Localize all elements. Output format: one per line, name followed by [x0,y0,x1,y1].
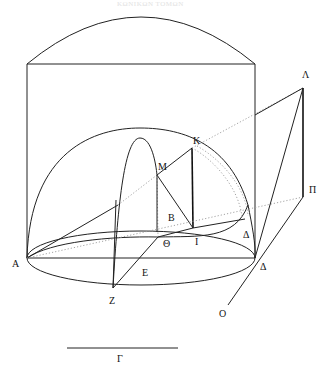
label-delta-lower: Δ [260,261,267,272]
dotted-quarter-arc-2 [197,146,248,216]
line-k-i [192,148,193,228]
label-gamma: Γ [117,353,123,364]
label-lambda: Λ [302,69,310,80]
label-kappa: Κ [193,135,201,146]
label-mu: Μ [158,161,167,172]
line-i-delta [193,219,245,228]
geometry-diagram: ΚΩΝΙΚΩΝ ΤΟΜΩΝ [0,0,331,373]
label-theta: Θ [163,238,170,249]
cylinder-top-arc [27,17,255,64]
line-z-theta [113,237,158,288]
line-to-lambda [255,88,303,115]
line-a-m [27,205,118,258]
label-pi: Π [309,184,316,195]
section-curve [113,138,157,288]
label-epsilon: Ε [142,267,148,278]
label-delta-upper: Δ [243,229,250,240]
dotted-quarter-arc [192,148,242,218]
label-beta: Β [168,212,175,223]
diagram-canvas: ΚΩΝΙΚΩΝ ΤΟΜΩΝ [0,0,331,373]
line-m-i [157,175,193,228]
line-pi-o [228,197,303,305]
page-header: ΚΩΝΙΚΩΝ ΤΟΜΩΝ [117,0,184,8]
line-a-m-dotted [118,175,157,205]
label-iota: Ι [195,236,198,247]
line-theta-i [158,228,193,237]
label-zeta: Ζ [109,295,115,306]
label-alpha: Α [12,258,20,269]
line-lambda-delta [255,88,303,258]
label-omicron: Ο [219,308,226,319]
